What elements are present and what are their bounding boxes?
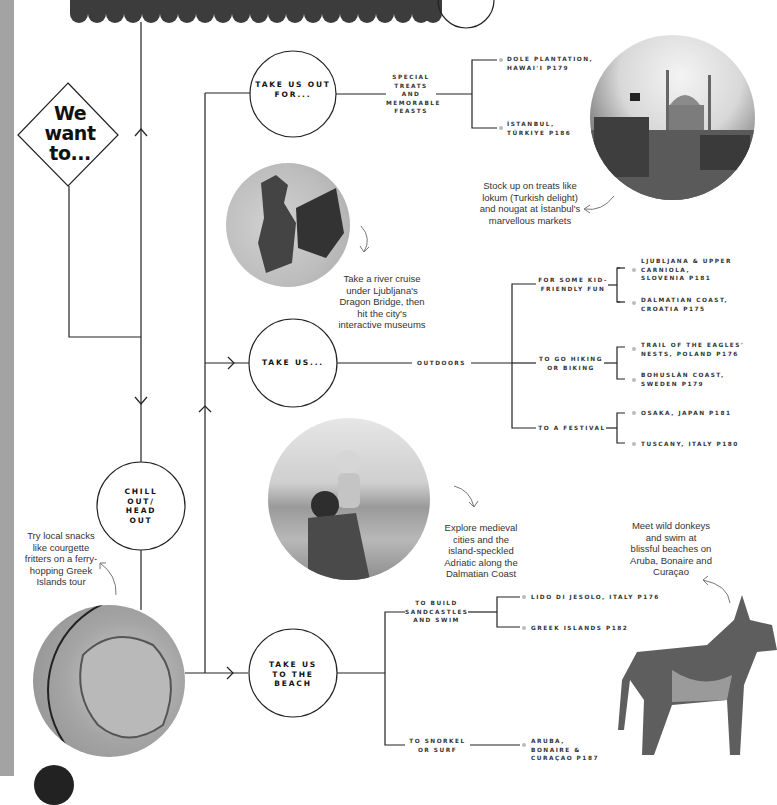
leaf-osaka[interactable]: OSAKA, JAPAN P181 <box>641 409 731 418</box>
bullet-icon <box>632 301 636 305</box>
branch-kid-friendly-fun[interactable]: FOR SOME KID-FRIENDLY FUN <box>538 276 608 293</box>
node-chill-out-head-out[interactable]: CHILL OUT/ HEAD OUT <box>112 487 170 525</box>
bullet-icon <box>632 347 636 351</box>
bullet-icon <box>499 58 503 62</box>
leaf-aruba-bonaire-curacao[interactable]: ARUBA, BONAIRE & CURAÇAO P187 <box>531 737 601 763</box>
bullet-icon <box>522 743 526 747</box>
page-number-badge <box>34 765 74 805</box>
node-take-us[interactable]: TAKE US... <box>255 358 331 368</box>
bullet-icon <box>632 411 636 415</box>
caption-dragon: Take a river cruise under Ljubljana's Dr… <box>336 273 428 331</box>
caption-donkey: Meet wild donkeys and swim at blissful b… <box>630 520 712 578</box>
dragon-statue-photo <box>226 163 350 287</box>
branch-festival[interactable]: TO A FESTIVAL <box>538 424 606 433</box>
bullet-icon <box>522 595 526 599</box>
father-child-silhouette-icon <box>268 418 430 580</box>
leaf-istanbul[interactable]: İSTANBUL, TÜRKIYE P186 <box>507 120 577 137</box>
mosque-silhouette-icon <box>590 35 755 200</box>
courgette-fritters-photo <box>33 605 185 757</box>
donkey-photo <box>612 590 777 770</box>
branch-hiking-biking[interactable]: TO GO HIKING OR BIKING <box>538 355 604 372</box>
bullet-icon <box>499 126 503 130</box>
caption-dalmatian: Explore medieval cities and the island-s… <box>443 522 519 580</box>
leaf-dole-plantation[interactable]: DOLE PLANTATION, HAWAI'I P179 <box>507 55 597 72</box>
father-child-coast-photo <box>268 418 430 580</box>
branch-snorkel-surf[interactable]: TO SNORKEL OR SURF <box>405 737 470 754</box>
caption-istanbul: Stock up on treats like lokum (Turkish d… <box>478 180 582 226</box>
leaf-ljubljana[interactable]: LJUBLJANA & UPPER CARNIOLA, SLOVENIA P18… <box>641 257 736 283</box>
leaf-dalmatian-coast[interactable]: DALMATIAN COAST, CROATIA P175 <box>641 296 731 313</box>
plate-fritters-icon <box>33 605 185 757</box>
istanbul-mosque-market-photo <box>590 35 755 200</box>
leaf-tuscany[interactable]: TUSCANY, ITALY P180 <box>641 440 739 449</box>
bullet-icon <box>632 442 636 446</box>
branch-outdoors[interactable]: OUTDOORS <box>412 359 471 368</box>
leaf-trail-eagles-nests[interactable]: TRAIL OF THE EAGLES' NESTS, POLAND P176 <box>641 341 751 358</box>
dragon-silhouette-icon <box>226 163 350 287</box>
node-take-us-to-the-beach[interactable]: TAKE US TO THE BEACH <box>260 660 326 689</box>
branch-special-treats[interactable]: SPECIAL TREATS AND MEMORABLE FEASTS <box>386 73 436 116</box>
start-diamond-label: We want to... <box>30 103 110 163</box>
bullet-icon <box>632 378 636 382</box>
leaf-bohuslan-coast[interactable]: BOHUSLÄN COAST, SWEDEN P179 <box>641 371 731 388</box>
branch-sandcastles-swim[interactable]: TO BUILD SANDCASTLES AND SWIM <box>405 599 468 625</box>
bullet-icon <box>522 626 526 630</box>
bullet-icon <box>632 268 636 272</box>
caption-greek-islands: Try local snacks like courgette fritters… <box>24 530 98 588</box>
node-take-us-out-for[interactable]: TAKE US OUT FOR... <box>255 80 331 99</box>
